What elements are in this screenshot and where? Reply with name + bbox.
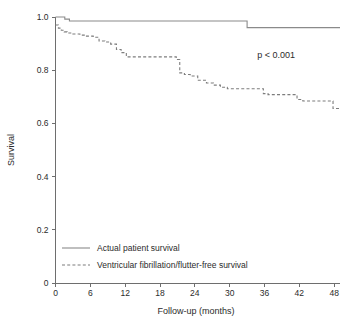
annotation-p-value: p < 0.001: [257, 50, 295, 60]
x-tick-label: 48: [329, 288, 339, 298]
y-axis-title: Survival: [6, 134, 16, 166]
y-axis: 00.20.40.60.81.0: [37, 12, 56, 288]
x-tick-label: 30: [225, 288, 235, 298]
y-tick-label: 0.6: [37, 118, 49, 128]
x-tick-label: 12: [120, 288, 130, 298]
x-axis-title: Follow-up (months): [157, 306, 234, 316]
series-line-solid: [56, 17, 341, 28]
legend-label: Actual patient survival: [97, 243, 180, 253]
y-tick-label: 0: [44, 278, 49, 288]
x-tick-label: 18: [155, 288, 165, 298]
y-tick-label: 0.8: [37, 65, 49, 75]
y-tick-label: 0.2: [37, 225, 49, 235]
data-series-group: [56, 17, 341, 109]
x-tick-label: 42: [295, 288, 305, 298]
x-tick-label: 6: [88, 288, 93, 298]
x-tick-group: 0612182430364248: [53, 283, 339, 298]
plot-area: 00.20.40.60.81.0 0612182430364248 Surviv…: [0, 0, 359, 321]
y-tick-label: 0.4: [37, 172, 49, 182]
legend-label: Ventricular fibrillation/flutter-free su…: [97, 260, 248, 270]
y-tick-group: 00.20.40.60.81.0: [37, 12, 56, 288]
chart-legend: Actual patient survivalVentricular fibri…: [62, 243, 248, 270]
survival-chart-figure: 00.20.40.60.81.0 0612182430364248 Surviv…: [0, 0, 359, 321]
annotation-group: p < 0.001: [257, 50, 295, 60]
series-line-dashed: [56, 25, 341, 109]
x-axis: 0612182430364248: [53, 283, 340, 298]
y-tick-label: 1.0: [37, 12, 49, 22]
x-tick-label: 36: [260, 288, 270, 298]
x-tick-label: 0: [53, 288, 58, 298]
x-tick-label: 24: [190, 288, 200, 298]
